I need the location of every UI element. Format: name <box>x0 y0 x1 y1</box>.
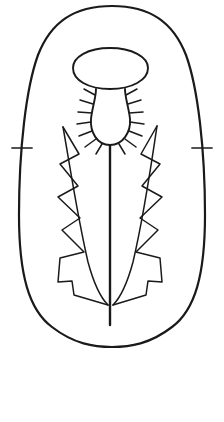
flower-head-ellipse <box>73 48 148 89</box>
calyx-spine-left-3 <box>78 112 92 113</box>
calyx-bulb <box>91 89 130 145</box>
thistle-artboard <box>0 0 224 422</box>
calyx-spine-right-3 <box>129 112 143 113</box>
drawing-canvas <box>0 0 224 422</box>
